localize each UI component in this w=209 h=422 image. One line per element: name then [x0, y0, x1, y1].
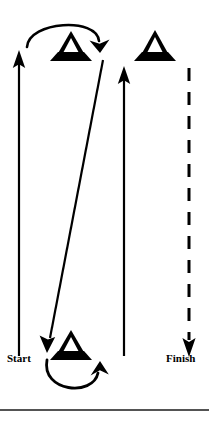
diagonal-arrow	[40, 60, 103, 353]
cone-3: 3	[134, 30, 176, 61]
cone-2-number: 2	[69, 44, 74, 54]
right-dashed-arrow	[182, 68, 195, 357]
left-up-arrow	[13, 50, 25, 356]
finish-label: Finish	[166, 352, 195, 364]
start-label: Start	[7, 352, 31, 364]
middle-up-arrow	[118, 66, 130, 356]
cone-1: 1	[50, 330, 92, 360]
bottom-turn-arc	[47, 360, 109, 388]
cone-3-number: 3	[153, 44, 158, 54]
cone-1-number: 1	[69, 343, 74, 353]
cone-2: 2	[50, 31, 92, 61]
drill-diagram: 2 3 1 Start Finish	[0, 0, 209, 422]
